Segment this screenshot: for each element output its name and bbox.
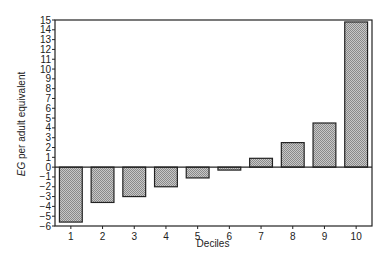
x-tick-label: 9 — [322, 231, 328, 242]
x-tick-label: 2 — [100, 231, 106, 242]
y-axis-title: EG per adult equivalent — [16, 72, 27, 177]
bar-decile-10 — [345, 22, 368, 167]
y-axis-title-italic: EG — [16, 162, 27, 177]
bar-chart: 1514131211109876543210−1−2−3−4−5−6 12345… — [0, 0, 389, 261]
x-tick-label: 1 — [68, 231, 74, 242]
bar-decile-2 — [91, 167, 114, 202]
x-tick-label: 3 — [131, 231, 137, 242]
bars — [55, 22, 372, 222]
x-tick-label: 7 — [258, 231, 264, 242]
x-tick-label: 10 — [351, 231, 363, 242]
x-tick-label: 4 — [163, 231, 169, 242]
bar-decile-7 — [250, 158, 273, 167]
bar-decile-1 — [59, 167, 82, 222]
y-tick-label: −6 — [40, 221, 52, 232]
bar-decile-5 — [186, 167, 209, 178]
bar-decile-9 — [313, 123, 336, 167]
bar-decile-3 — [123, 167, 146, 196]
y-axis: 1514131211109876543210−1−2−3−4−5−6 — [40, 15, 55, 232]
x-tick-label: 8 — [290, 231, 296, 242]
y-axis-title-rest: per adult equivalent — [16, 72, 27, 162]
x-axis-title: Deciles — [197, 238, 230, 249]
bar-decile-4 — [155, 167, 178, 187]
bar-decile-8 — [281, 143, 304, 168]
